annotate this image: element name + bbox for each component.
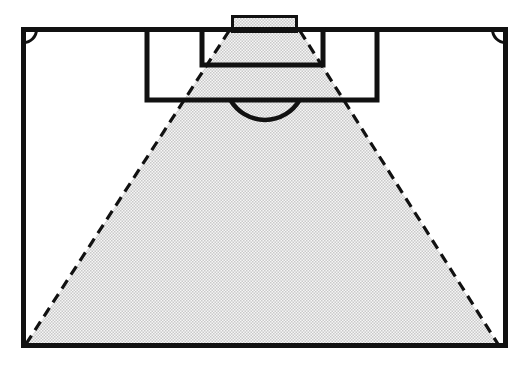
pitch-diagram: [0, 0, 523, 373]
pitch-diagram-canvas: [0, 0, 523, 373]
